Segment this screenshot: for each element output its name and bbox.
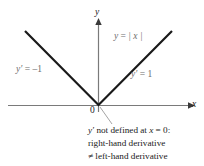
caption-line-3: ≠ left-hand derivative [88, 150, 204, 163]
figure-caption: y′ not defined at x = 0: right-hand deri… [88, 124, 204, 163]
derivative-right-rhs: 1 [147, 69, 152, 79]
y-axis-label: y [95, 8, 99, 18]
x-axis-label: x [192, 100, 196, 110]
caption-line-1: y′ not defined at x = 0: [88, 124, 204, 137]
caption-line-1-end: = 0: [153, 125, 170, 135]
caption-line-2: right-hand derivative [88, 137, 204, 150]
derivative-right-label: y′ = 1 [131, 70, 152, 80]
origin-label: 0 [90, 106, 95, 116]
caption-line-1-rest: not defined at [94, 125, 149, 135]
derivative-left-rhs: –1 [32, 64, 42, 74]
caption-leader-line [100, 107, 112, 124]
derivative-left-eq: = [22, 64, 32, 74]
derivative-right-eq: = [137, 69, 147, 79]
function-label: y = | x | [114, 32, 143, 42]
function-label-eq: = [118, 31, 128, 41]
derivative-left-label: y′ = –1 [16, 65, 42, 75]
function-label-rhs: | x | [128, 31, 142, 41]
y-axis-arrowhead [95, 18, 101, 25]
absolute-value-derivative-figure: y x 0 y = | x | y′ = –1 y′ = 1 y′ not de… [0, 0, 204, 166]
